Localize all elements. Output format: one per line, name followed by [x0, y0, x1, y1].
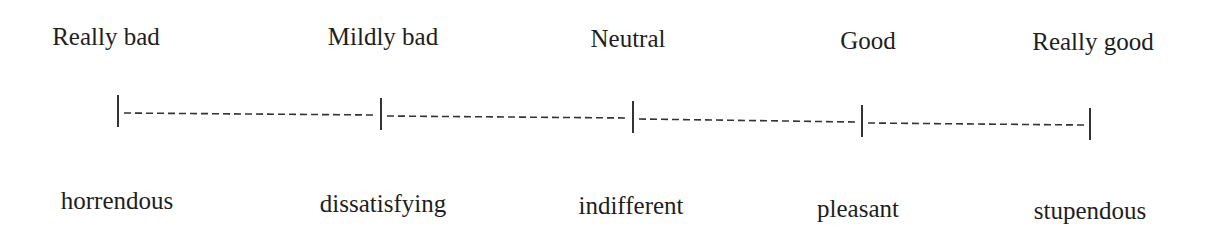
bottom-label-dissatisfying: dissatisfying: [320, 189, 446, 219]
bottom-label-indifferent: indifferent: [578, 191, 683, 221]
dashed-segment: [868, 123, 1084, 125]
dashed-segment: [124, 113, 375, 115]
bottom-label-horrendous: horrendous: [61, 186, 173, 216]
dashed-segment: [639, 119, 856, 122]
bottom-label-pleasant: pleasant: [817, 194, 899, 224]
dashed-segment: [387, 116, 627, 118]
bottom-label-stupendous: stupendous: [1034, 196, 1147, 226]
